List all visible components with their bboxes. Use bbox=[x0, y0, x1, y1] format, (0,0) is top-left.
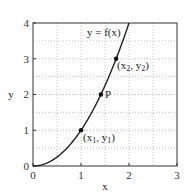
point-label-x1y1: (x1, y1) bbox=[83, 131, 115, 145]
y-tick-4: 4 bbox=[24, 17, 30, 29]
x-tick-0: 0 bbox=[30, 169, 36, 181]
x-tick-2: 2 bbox=[126, 169, 132, 181]
y-tick-3: 3 bbox=[24, 53, 30, 65]
x-tick-1: 1 bbox=[78, 169, 84, 181]
point-marker bbox=[99, 92, 104, 97]
y-tick-2: 2 bbox=[24, 88, 30, 100]
curve-label: y = f(x) bbox=[87, 26, 121, 39]
point-label-p: P bbox=[105, 88, 111, 100]
chart: 0 1 2 3 0 1 2 3 4 x y y = f(x) (x2, y2) … bbox=[0, 0, 187, 194]
y-tick-0: 0 bbox=[24, 160, 30, 172]
y-axis-label: y bbox=[8, 88, 14, 100]
x-axis-label: x bbox=[102, 180, 108, 192]
point-label-x2y2: (x2, y2) bbox=[117, 59, 149, 73]
y-tick-1: 1 bbox=[24, 124, 30, 136]
x-tick-3: 3 bbox=[174, 169, 180, 181]
